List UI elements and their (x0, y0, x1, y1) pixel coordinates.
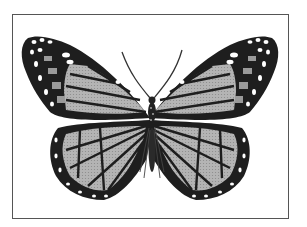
left-hindwing (50, 120, 151, 200)
left-forewing (22, 36, 150, 120)
right-hindwing (149, 120, 250, 200)
butterfly-illustration (0, 0, 307, 227)
